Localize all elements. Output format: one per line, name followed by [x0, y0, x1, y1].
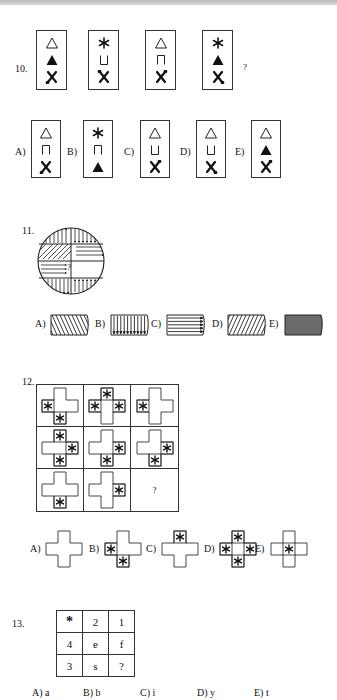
grid-cell — [84, 469, 131, 511]
question-11-option-label: A) — [35, 318, 46, 329]
question-12-option-label: B) — [89, 543, 99, 554]
cross-with-dot-icon — [211, 70, 225, 84]
grid-cell: s — [83, 655, 109, 677]
grid-cell — [37, 469, 84, 511]
question-10-option-label: D) — [180, 146, 191, 157]
grid-cell — [37, 385, 84, 427]
open-bottom-bracket-icon — [154, 53, 168, 67]
cross-star-figure — [88, 429, 126, 467]
outline-triangle-icon — [154, 36, 168, 50]
question-13-option-a[interactable]: A) a — [32, 687, 50, 698]
question-10-option-a[interactable] — [31, 120, 61, 178]
question-11-option-e[interactable] — [284, 314, 324, 336]
question-10-question-mark: ? — [243, 62, 247, 72]
question-10-sequence-card — [36, 30, 67, 90]
question-12-option-e[interactable] — [270, 530, 308, 568]
outline-triangle-icon — [148, 126, 162, 140]
question-11-question-mark: ? — [67, 262, 71, 272]
question-10-option-b[interactable] — [83, 120, 113, 178]
outline-triangle-icon — [39, 126, 53, 140]
question-12-option-a[interactable] — [45, 530, 83, 568]
cross-star-figure — [88, 387, 126, 425]
question-10-option-label: A) — [15, 146, 26, 157]
outline-triangle-icon — [259, 126, 273, 140]
question-11-option-d[interactable] — [227, 314, 267, 336]
cross-with-dot-icon — [45, 70, 59, 84]
question-11-option-label: B) — [95, 318, 105, 329]
question-12-option-label: A) — [30, 543, 41, 554]
open-bottom-bracket-icon — [91, 143, 105, 157]
grid-cell: ? — [131, 469, 178, 511]
question-11-option-c[interactable] — [166, 314, 206, 336]
question-12-option-b[interactable] — [104, 530, 142, 568]
grid-cell: 2 — [83, 611, 109, 633]
cross-with-dot-icon — [97, 70, 111, 84]
question-13-option-e[interactable]: E) t — [254, 687, 269, 698]
grid-cell: e — [83, 633, 109, 655]
question-11-option-label: E) — [269, 318, 278, 329]
question-13-grid: * 2 1 4 e f 3 s ? — [56, 610, 135, 677]
outline-triangle-icon — [204, 126, 218, 140]
cross-with-dot-icon — [154, 70, 168, 84]
question-13-option-c[interactable]: C) i — [140, 687, 155, 698]
cross-star-figure — [41, 471, 79, 509]
question-11-option-a[interactable] — [50, 314, 90, 336]
question-10-option-label: B) — [67, 146, 77, 157]
filled-triangle-icon — [259, 143, 273, 157]
question-12-option-label: C) — [146, 543, 156, 554]
question-10-option-e[interactable] — [251, 120, 281, 178]
grid-cell — [131, 427, 178, 469]
question-11-option-b[interactable] — [110, 314, 150, 336]
grid-cell: 3 — [57, 655, 83, 677]
cross-star-figure — [88, 471, 126, 509]
question-10-sequence-card — [202, 30, 233, 90]
cross-with-dot-icon — [148, 160, 162, 174]
question-12-question-mark: ? — [153, 485, 157, 495]
cross-star-figure — [136, 387, 174, 425]
grid-cell — [37, 427, 84, 469]
outline-triangle-icon — [45, 36, 59, 50]
question-10-option-d[interactable] — [196, 120, 226, 178]
question-13-option-d[interactable]: D) y — [197, 687, 215, 698]
question-10-sequence-card — [88, 30, 119, 90]
question-13-option-b[interactable]: B) b — [83, 687, 101, 698]
cross-star-figure — [136, 429, 174, 467]
question-12-option-label: E) — [255, 543, 264, 554]
grid-cell: ? — [109, 655, 135, 677]
filled-triangle-icon — [45, 53, 59, 67]
open-bottom-bracket-icon — [39, 143, 53, 157]
cross-with-dot-icon — [39, 160, 53, 174]
filled-triangle-icon — [211, 53, 225, 67]
grid-cell — [131, 385, 178, 427]
question-13-number: 13. — [12, 618, 25, 629]
cross-star-figure — [41, 429, 79, 467]
grid-cell — [84, 427, 131, 469]
grid-cell: f — [109, 633, 135, 655]
question-10-option-label: C) — [124, 146, 134, 157]
question-10-sequence-card — [145, 30, 176, 90]
page-top-edge — [0, 0, 337, 5]
question-12-number: 12. — [22, 376, 35, 387]
cross-with-dot-icon — [204, 160, 218, 174]
asterisk-icon — [91, 126, 105, 140]
question-12-option-c[interactable] — [161, 530, 199, 568]
question-10-option-c[interactable] — [140, 120, 170, 178]
filled-triangle-icon — [91, 160, 105, 174]
asterisk-icon — [97, 36, 111, 50]
cross-with-dot-icon — [259, 160, 273, 174]
question-10-option-label: E) — [235, 146, 244, 157]
question-12-option-d[interactable] — [219, 530, 257, 568]
grid-cell: 1 — [109, 611, 135, 633]
question-12-option-label: D) — [204, 543, 215, 554]
open-top-bracket-icon — [97, 53, 111, 67]
question-10-number: 10. — [15, 63, 28, 74]
asterisk-icon — [211, 36, 225, 50]
open-top-bracket-icon — [204, 143, 218, 157]
open-top-bracket-icon — [148, 143, 162, 157]
grid-cell: * — [57, 611, 83, 633]
grid-cell: 4 — [57, 633, 83, 655]
question-11-option-label: D) — [212, 318, 223, 329]
question-12-grid: ? — [36, 384, 179, 512]
cross-star-figure — [41, 387, 79, 425]
question-11-circle — [36, 226, 106, 296]
